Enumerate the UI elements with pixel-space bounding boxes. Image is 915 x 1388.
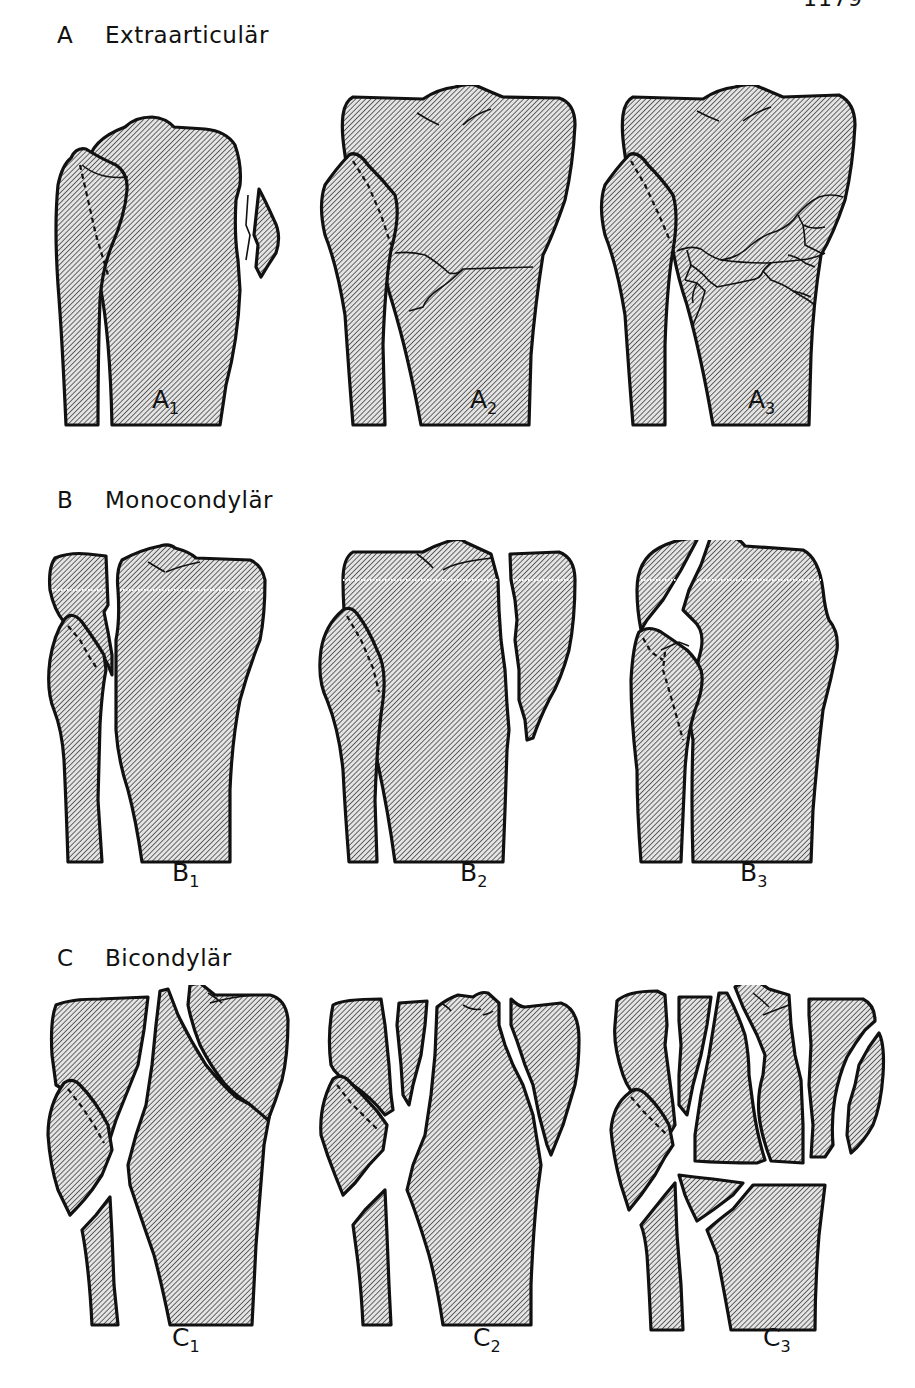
tibia-fracture-drawing	[593, 85, 873, 430]
figure-a2: A2	[313, 85, 593, 430]
tibia-fracture-drawing	[593, 985, 893, 1365]
section-name: Extraarticulär	[105, 22, 269, 48]
page-number: 1179	[803, 0, 863, 11]
figure-a1: A1	[40, 85, 300, 430]
figure-label-a3: A3	[748, 385, 775, 418]
figure-label-a1: A1	[152, 385, 179, 418]
tibia-fracture-drawing	[40, 85, 300, 430]
tibia-fracture-drawing	[313, 540, 593, 880]
figure-a3: A3	[593, 85, 873, 430]
section-name: Monocondylär	[105, 487, 273, 513]
figure-label-b2: B2	[460, 858, 487, 891]
figure-label-b1: B1	[172, 858, 199, 891]
tibia-fracture-drawing	[40, 540, 310, 880]
section-title-c: CBicondylär	[57, 945, 232, 971]
tibia-fracture-drawing	[313, 985, 593, 1365]
section-letter: B	[57, 487, 105, 513]
figure-label-c3: C3	[763, 1323, 791, 1356]
tibia-fracture-drawing	[593, 540, 873, 880]
figure-label-b3: B3	[740, 858, 767, 891]
figure-label-c1: C1	[172, 1323, 200, 1356]
figure-label-c2: C2	[473, 1323, 501, 1356]
section-letter: C	[57, 945, 105, 971]
tibia-fracture-drawing	[40, 985, 310, 1365]
section-letter: A	[57, 22, 105, 48]
section-title-a: AExtraarticulär	[57, 22, 269, 48]
section-name: Bicondylär	[105, 945, 232, 971]
figure-c1: C1	[40, 985, 310, 1365]
figure-c3: C3	[593, 985, 893, 1365]
figure-b2: B2	[313, 540, 593, 880]
figure-b3: B3	[593, 540, 873, 880]
figure-b1: B1	[40, 540, 310, 880]
tibia-fracture-drawing	[313, 85, 593, 430]
figure-label-a2: A2	[470, 385, 497, 418]
figure-c2: C2	[313, 985, 593, 1365]
section-title-b: BMonocondylär	[57, 487, 273, 513]
